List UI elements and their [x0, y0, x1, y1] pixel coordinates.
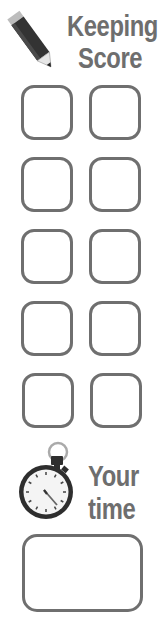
score-box-5-1[interactable] [22, 373, 74, 428]
score-box-5-2[interactable] [90, 373, 142, 428]
score-box-2-1[interactable] [21, 157, 73, 212]
pencil-icon [6, 6, 62, 76]
score-box-3-2[interactable] [89, 229, 141, 284]
time-label-line-1: Your [88, 462, 139, 491]
score-box-2-2[interactable] [89, 157, 141, 212]
score-box-4-1[interactable] [21, 301, 73, 356]
stopwatch-icon [14, 440, 80, 528]
score-box-1-1[interactable] [21, 85, 73, 140]
score-box-4-2[interactable] [89, 301, 141, 356]
score-box-1-2[interactable] [89, 85, 141, 140]
title-line-2: Score [78, 44, 142, 73]
time-label-line-2: time [88, 495, 135, 524]
time-input-box[interactable] [22, 534, 143, 612]
score-box-3-1[interactable] [21, 229, 73, 284]
title-line-1: Keeping [67, 12, 158, 41]
